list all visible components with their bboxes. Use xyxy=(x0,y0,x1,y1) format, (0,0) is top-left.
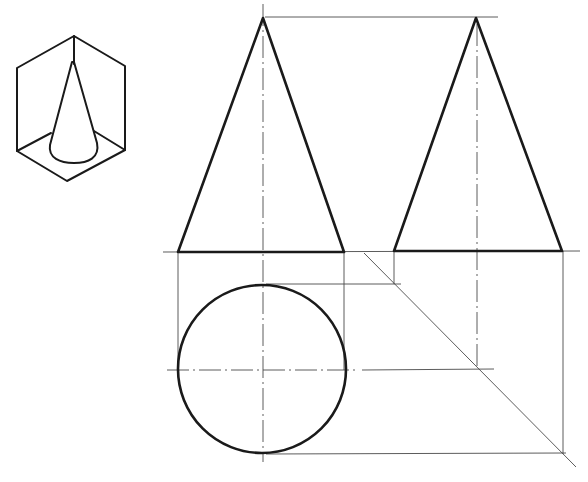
side-view-triangle xyxy=(394,18,562,251)
front-view-triangle xyxy=(178,18,344,252)
projection-lines xyxy=(163,17,580,467)
center-lines xyxy=(167,4,477,462)
center-projector xyxy=(362,369,494,370)
orthographic-diagram xyxy=(0,0,588,482)
pictorial-floor-left-edge xyxy=(17,133,51,151)
top-view-circle xyxy=(178,285,346,453)
pictorial-cone xyxy=(50,62,98,163)
miter-line xyxy=(364,253,576,467)
circle-bottom-projector xyxy=(266,453,566,454)
pictorial-floor-right-edge xyxy=(94,131,125,150)
isometric-pictorial xyxy=(17,36,125,181)
pictorial-hexagon-outline xyxy=(17,36,125,181)
